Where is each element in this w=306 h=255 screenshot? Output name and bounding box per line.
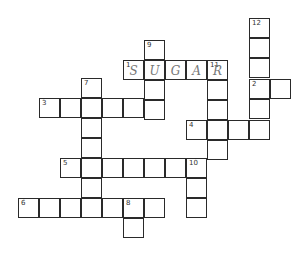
crossword-cell[interactable] xyxy=(144,198,165,218)
crossword-cell[interactable] xyxy=(144,80,165,100)
cell-letter: A xyxy=(187,64,206,78)
crossword-cell[interactable]: 9 xyxy=(144,40,165,60)
crossword-cell[interactable] xyxy=(207,100,228,120)
crossword-cell[interactable]: 5 xyxy=(60,158,81,178)
crossword-cell[interactable] xyxy=(39,198,60,218)
crossword-cell[interactable] xyxy=(207,80,228,100)
crossword-cell[interactable]: U xyxy=(144,60,165,80)
crossword-cell[interactable] xyxy=(249,99,270,119)
crossword-cell[interactable]: 2 xyxy=(249,79,270,99)
crossword-cell[interactable] xyxy=(228,120,249,140)
crossword-cell[interactable] xyxy=(186,198,207,218)
crossword-cell[interactable] xyxy=(81,118,102,138)
cell-letter: S xyxy=(124,64,143,78)
cell-letter: G xyxy=(166,64,185,78)
crossword-cell[interactable]: G xyxy=(165,60,186,80)
clue-number: 7 xyxy=(84,79,88,87)
clue-number: 10 xyxy=(189,159,198,167)
crossword-cell[interactable] xyxy=(123,158,144,178)
crossword-cell[interactable]: 7 xyxy=(81,78,102,98)
crossword-cell[interactable] xyxy=(102,158,123,178)
crossword-cell[interactable] xyxy=(144,100,165,120)
crossword-cell[interactable] xyxy=(123,98,144,118)
clue-number: 5 xyxy=(63,159,67,167)
clue-number: 2 xyxy=(252,80,256,88)
crossword-cell[interactable] xyxy=(102,98,123,118)
crossword-cell[interactable] xyxy=(81,198,102,218)
crossword-cell[interactable]: 12 xyxy=(249,18,270,38)
crossword-cell[interactable]: 8 xyxy=(123,198,144,218)
crossword-cell[interactable] xyxy=(60,98,81,118)
crossword-cell[interactable] xyxy=(207,140,228,160)
crossword-cell[interactable] xyxy=(270,79,291,99)
clue-number: 3 xyxy=(42,99,46,107)
clue-number: 9 xyxy=(147,41,151,49)
crossword-cell[interactable] xyxy=(249,58,270,78)
crossword-cell[interactable]: 10 xyxy=(186,158,207,178)
crossword-cell[interactable]: 3 xyxy=(39,98,60,118)
crossword-cell[interactable]: 1S xyxy=(123,60,144,80)
crossword-cell[interactable]: 4 xyxy=(186,120,207,140)
crossword-cell[interactable] xyxy=(102,198,123,218)
crossword-cell[interactable]: 6 xyxy=(18,198,39,218)
crossword-cell[interactable]: A xyxy=(186,60,207,80)
crossword-cell[interactable] xyxy=(186,178,207,198)
crossword-cell[interactable] xyxy=(207,120,228,140)
crossword-cell[interactable] xyxy=(81,98,102,118)
clue-number: 4 xyxy=(189,121,193,129)
cell-letter: U xyxy=(145,64,164,78)
clue-number: 6 xyxy=(21,199,25,207)
crossword-grid: 12291SUGA11R73451068 xyxy=(0,0,306,255)
crossword-cell[interactable] xyxy=(81,138,102,158)
crossword-cell[interactable] xyxy=(249,38,270,58)
crossword-cell[interactable] xyxy=(60,198,81,218)
crossword-cell[interactable]: 11R xyxy=(207,60,228,80)
clue-number: 8 xyxy=(126,199,130,207)
crossword-cell[interactable] xyxy=(144,158,165,178)
clue-number: 12 xyxy=(252,19,261,27)
crossword-cell[interactable] xyxy=(249,120,270,140)
crossword-cell[interactable] xyxy=(81,178,102,198)
crossword-cell[interactable] xyxy=(81,158,102,178)
cell-letter: R xyxy=(208,64,227,78)
crossword-cell[interactable] xyxy=(165,158,186,178)
crossword-cell[interactable] xyxy=(123,218,144,238)
